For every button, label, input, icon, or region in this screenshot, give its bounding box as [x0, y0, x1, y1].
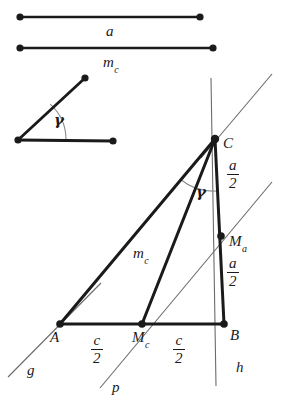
label-a-over-2-lower-numerator: a — [227, 256, 239, 271]
segment-a-group — [16, 13, 203, 20]
midpoint-ma-dot — [217, 232, 225, 240]
vertex-c-dot — [211, 135, 219, 143]
triangle-abc-group — [56, 135, 228, 328]
midpoint-mc-label-base: M — [132, 329, 145, 345]
label-a-over-2-upper: a 2 — [227, 158, 239, 191]
segment-a-endpoint-right — [196, 13, 203, 20]
median-mc-label: mc — [133, 246, 148, 264]
line-g-label: g — [27, 363, 35, 378]
label-a-over-2-lower-denominator: 2 — [227, 274, 239, 289]
median-mc-label-base: m — [133, 245, 144, 261]
label-c-over-2-right: c 2 — [173, 333, 185, 366]
angle-gamma-vertex — [14, 136, 21, 143]
angle-gamma-endpoint-lower — [109, 137, 116, 144]
label-a-over-2-lower: a 2 — [227, 256, 239, 289]
triangle-side-cb — [215, 139, 224, 324]
segment-mc-label: mc — [103, 55, 118, 73]
angle-gamma-ray-upper — [18, 78, 85, 140]
vertex-b-label: B — [230, 328, 239, 343]
vertex-b-dot — [220, 320, 228, 328]
label-c-over-2-right-numerator: c — [173, 333, 185, 348]
midpoint-ma-label-subscript: a — [242, 243, 247, 254]
vertex-a-dot — [56, 320, 64, 328]
line-p-label: p — [112, 380, 120, 395]
midpoint-ma-label: Ma — [229, 234, 247, 252]
angle-gamma-label: γ — [54, 113, 64, 128]
midpoint-ma-label-base: M — [229, 233, 242, 249]
segment-mc-label-subscript: c — [114, 64, 118, 75]
segment-a-label: a — [106, 24, 114, 39]
label-c-over-2-left-denominator: 2 — [91, 351, 103, 366]
angle-gamma-group — [14, 74, 116, 144]
median-c-mc — [142, 139, 215, 324]
segment-mc-endpoint-left — [16, 44, 23, 51]
label-c-over-2-right-denominator: 2 — [173, 351, 185, 366]
label-a-over-2-upper-denominator: 2 — [227, 176, 239, 191]
midpoint-mc-label-subscript: c — [145, 339, 149, 350]
label-c-over-2-left: c 2 — [91, 333, 103, 366]
line-h — [211, 78, 216, 386]
midpoint-mc-label: Mc — [132, 330, 149, 348]
median-mc-label-subscript: c — [144, 255, 148, 266]
line-h-label: h — [236, 360, 244, 375]
angle-gamma-ray-lower — [18, 140, 113, 141]
midpoint-mc-dot — [138, 320, 146, 328]
label-a-over-2-upper-numerator: a — [227, 158, 239, 173]
geometry-figure: a mc γ A B C Mc Ma mc γ a 2 a 2 c 2 c 2 … — [0, 0, 283, 415]
angle-gamma-endpoint-upper — [81, 74, 88, 81]
segment-mc-endpoint-right — [209, 44, 216, 51]
triangle-side-ac — [60, 139, 215, 324]
segment-mc-group — [16, 44, 216, 51]
vertex-a-label: A — [50, 330, 59, 345]
segment-a-endpoint-left — [16, 13, 23, 20]
angle-gamma-at-c-label: γ — [196, 185, 206, 200]
segment-mc-label-base: m — [103, 54, 114, 70]
vertex-c-label: C — [223, 136, 233, 151]
figure-canvas — [0, 0, 283, 415]
label-c-over-2-left-numerator: c — [91, 333, 103, 348]
